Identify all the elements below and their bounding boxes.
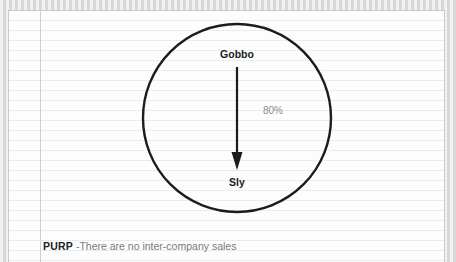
footer-note: PURP -There are no inter-company sales [43, 239, 236, 253]
diagram-svg: Gobbo Sly 80% [9, 11, 445, 262]
screenshot-canvas: Gobbo Sly 80% PURP -There are no inter-c… [0, 0, 456, 262]
footer-note-description: There are no inter-company sales [79, 240, 236, 252]
edge-label-ownership-percent: 80% [263, 105, 283, 116]
node-label-sly: Sly [229, 176, 245, 188]
node-label-gobbo: Gobbo [220, 48, 254, 60]
edge-gobbo-to-sly-arrowhead [232, 152, 243, 170]
footer-note-code: PURP [43, 240, 73, 252]
ruled-paper-sheet: Gobbo Sly 80% PURP -There are no inter-c… [8, 10, 445, 262]
ownership-diagram: Gobbo Sly 80% [9, 11, 445, 262]
